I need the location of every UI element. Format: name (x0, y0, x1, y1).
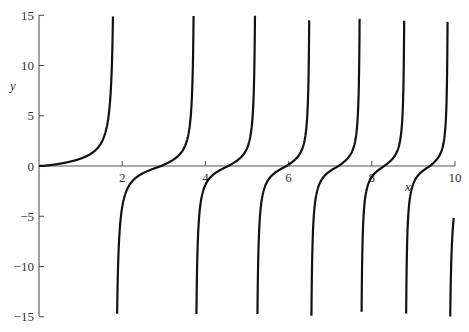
y-tick-label: 5 (28, 108, 35, 123)
chart: 151050−5−10−15 246810 y x (0, 0, 469, 332)
y-tick-label: −10 (14, 259, 34, 274)
y-tick-label: 10 (21, 58, 34, 73)
y-tick-label: 0 (28, 159, 35, 174)
y-tick-label: −15 (14, 309, 34, 324)
x-tick-label: 10 (449, 170, 462, 185)
y-axis-label: y (8, 78, 16, 93)
x-tick-label: 2 (119, 170, 126, 185)
x-tick-label: 6 (285, 170, 292, 185)
y-tick-label: −5 (20, 209, 34, 224)
y-tick-label: 15 (21, 8, 34, 23)
